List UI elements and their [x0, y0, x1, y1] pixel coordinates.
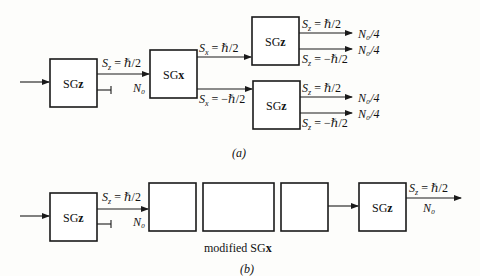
- sgx-up-label: Sx = ℏ/2: [199, 41, 238, 57]
- final-out-label: Sz = ℏ/2: [409, 181, 448, 197]
- modified-sgx-box-2: [203, 183, 274, 231]
- sgz-box-b-label: SGz: [63, 211, 84, 225]
- sgz-upper-up-label: Sz = ℏ/2: [302, 17, 341, 33]
- sgx-down-label: Sx = −ℏ/2: [199, 92, 245, 108]
- sgz-final-label: SGz: [372, 201, 393, 215]
- sgz-b-up-label: Sz = ℏ/2: [102, 190, 141, 206]
- caption-a: (a): [232, 146, 246, 160]
- part-a: SGz Sz = ℏ/2 N₀ SGx Sx = ℏ/2 Sx = −ℏ/2 S…: [20, 17, 380, 160]
- count-upper-up: N₀/4: [357, 27, 380, 41]
- stern-gerlach-diagram: SGz Sz = ℏ/2 N₀ SGx Sx = ℏ/2 Sx = −ℏ/2 S…: [0, 0, 480, 276]
- count-lower-down: N₀/4: [357, 107, 380, 121]
- part-b: SGz Sz = ℏ/2 N₀ modified SGx SGz Sz = ℏ/…: [20, 181, 461, 276]
- n0-count-label: N₀: [132, 81, 145, 95]
- count-upper-down: N₀/4: [357, 43, 380, 57]
- n0-count-label-b: N₀: [132, 215, 145, 229]
- sgz-lower-up-label: Sz = ℏ/2: [302, 81, 341, 97]
- sgx-box-label: SGx: [163, 68, 184, 82]
- sgz-upper-label: SGz: [265, 35, 286, 49]
- count-lower-up: N₀/4: [357, 91, 380, 105]
- sgz-upper-down-label: Sz = −ℏ/2: [302, 52, 348, 68]
- modified-sgx-box-3: [281, 183, 328, 231]
- final-count-label: N₀: [422, 201, 435, 215]
- modified-sgx-box-1: [149, 183, 196, 231]
- sgz-box-1-label: SGz: [63, 77, 84, 91]
- caption-b: (b): [240, 262, 254, 276]
- modified-sgx-label: modified SGx: [204, 241, 272, 255]
- sgz-1-up-label: Sz = ℏ/2: [102, 56, 141, 72]
- sgz-lower-down-label: Sz = −ℏ/2: [302, 116, 348, 132]
- sgz-lower-label: SGz: [266, 99, 287, 113]
